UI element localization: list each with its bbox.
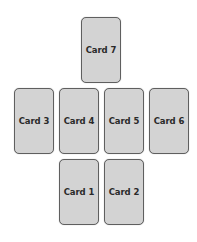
card-label: Card 2 (109, 187, 140, 197)
card-3[interactable]: Card 3 (14, 88, 54, 154)
card-6[interactable]: Card 6 (149, 88, 189, 154)
card-label: Card 1 (64, 187, 95, 197)
card-label: Card 3 (19, 116, 50, 126)
card-4[interactable]: Card 4 (59, 88, 99, 154)
card-7[interactable]: Card 7 (81, 17, 121, 83)
card-label: Card 5 (109, 116, 140, 126)
card-label: Card 4 (64, 116, 95, 126)
card-5[interactable]: Card 5 (104, 88, 144, 154)
card-label: Card 7 (86, 45, 117, 55)
card-2[interactable]: Card 2 (104, 159, 144, 225)
card-1[interactable]: Card 1 (59, 159, 99, 225)
card-label: Card 6 (154, 116, 185, 126)
